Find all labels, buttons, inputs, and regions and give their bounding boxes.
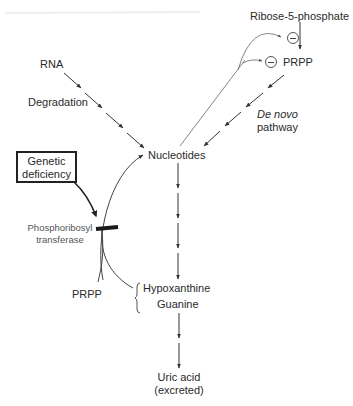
inhibition-icon-upper — [287, 32, 299, 44]
hypoxanthine-label: Hypoxanthine — [143, 282, 210, 295]
pathway-label: pathway — [257, 121, 298, 134]
salvage-pathway-curves — [98, 155, 143, 288]
inhibition-icon-lower — [265, 56, 277, 68]
bracket — [135, 283, 140, 313]
deficiency-label: deficiency — [21, 168, 72, 181]
enzyme-label-line1: Phosphoribosyl — [22, 222, 98, 234]
genetic-label: Genetic — [21, 155, 72, 168]
enzyme-label-line2: transferase — [22, 234, 98, 246]
prpp-label-salvage: PRPP — [72, 288, 102, 301]
prpp-label-top: PRPP — [283, 56, 313, 69]
de-novo-label: De novo — [257, 108, 298, 121]
enzyme-block-bar — [96, 227, 118, 229]
nucleotides-label: Nucleotides — [148, 149, 205, 162]
uric-acid-label: Uric acid — [148, 371, 210, 384]
degradation-label: Degradation — [28, 96, 88, 109]
ribose-5-phosphate-label: Ribose-5-phosphate — [250, 10, 349, 23]
rna-label: RNA — [40, 58, 63, 71]
excreted-label: (excreted) — [148, 384, 210, 397]
genetic-deficiency-box: Genetic deficiency — [16, 151, 77, 183]
scan-artifact — [5, 12, 200, 13]
guanine-label: Guanine — [157, 298, 199, 311]
genetic-deficiency-arrow — [74, 182, 96, 216]
rna-degradation-arrows — [64, 73, 144, 148]
